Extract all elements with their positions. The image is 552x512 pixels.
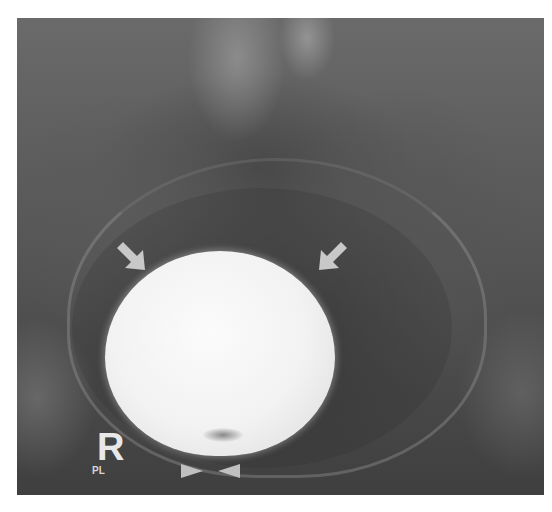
side-marker-letter: R (97, 428, 124, 466)
arrow-down-left-icon (315, 240, 349, 274)
contrast-filled-bladder (105, 251, 335, 456)
arrowhead-left-icon (218, 464, 240, 478)
side-marker-sublabel: PL (92, 466, 105, 476)
arrow-down-right-icon (115, 240, 149, 274)
arrowhead-right-icon (181, 464, 203, 478)
xray-image (17, 18, 544, 495)
bladder-base-impression (203, 428, 243, 442)
